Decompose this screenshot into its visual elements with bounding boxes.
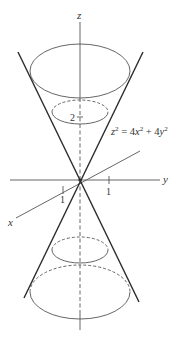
x-tick-label: 1 <box>60 194 65 205</box>
cone-generators <box>18 52 143 302</box>
cone-line-left-to-right <box>18 52 139 302</box>
axes <box>10 22 160 330</box>
equation-label: z2 = 4x2 + 4y2 <box>110 125 168 137</box>
z-tick-label: 2 <box>70 112 75 123</box>
y-tick-label: 1 <box>106 186 111 197</box>
x-axis-label: x <box>7 216 13 228</box>
x-axis <box>16 151 140 218</box>
origin-vertex <box>78 178 81 181</box>
double-cone-diagram: z y x 2 1 1 z2 = 4x2 + 4y2 <box>0 0 196 341</box>
z-axis-label: z <box>76 9 82 21</box>
y-axis-label: y <box>162 173 168 185</box>
